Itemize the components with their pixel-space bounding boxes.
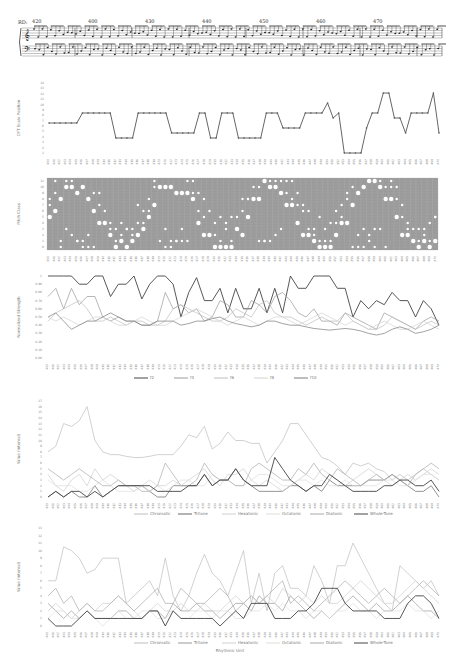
pitch-dot bbox=[87, 234, 89, 236]
y-tick-label: 10 bbox=[40, 103, 44, 107]
pitch-dot bbox=[159, 240, 161, 242]
x-tick-label: 432 bbox=[224, 632, 228, 638]
pitch-dot bbox=[291, 180, 293, 182]
x-tick-label: 411 bbox=[107, 159, 111, 165]
x-tick-label: 444 bbox=[289, 256, 293, 262]
x-tick-label: 415 bbox=[129, 632, 133, 638]
musical-score-excerpt: RD:420400430440450460470𝄞𝄢 bbox=[18, 18, 446, 62]
x-tick-label: 414 bbox=[123, 364, 127, 370]
x-tick-label: 418 bbox=[146, 256, 150, 262]
pitch-dot bbox=[147, 215, 151, 219]
y-tick-label: 0 bbox=[40, 624, 42, 628]
y-tick-label: 0.60 bbox=[35, 307, 42, 311]
x-tick-label: 400 bbox=[45, 632, 49, 638]
y-tick-label: 3 bbox=[42, 227, 44, 231]
pitch-dot bbox=[302, 210, 304, 212]
y-tick-label: 14 bbox=[40, 81, 44, 85]
x-tick-label: 461 bbox=[386, 632, 390, 638]
pitch-dot bbox=[125, 245, 129, 249]
y-tick-label: 6 bbox=[42, 209, 44, 213]
x-tick-label: 434 bbox=[234, 256, 238, 262]
y-tick-label: 11 bbox=[38, 541, 42, 545]
chart-normalized-strength: 0.000.100.200.300.400.500.600.700.800.90… bbox=[14, 268, 446, 383]
pitch-dot bbox=[109, 222, 111, 224]
pitch-dot bbox=[295, 221, 299, 225]
pitch-dot bbox=[296, 192, 298, 194]
legend-label: Hexatonic bbox=[238, 640, 258, 645]
x-tick-label: 456 bbox=[356, 256, 360, 262]
x-tick-label: 419 bbox=[151, 256, 155, 262]
x-tick-label: 401 bbox=[51, 632, 55, 638]
y-tick-label: 2 bbox=[42, 233, 44, 237]
legend-label: Hexatonic bbox=[238, 511, 258, 516]
pitch-dot bbox=[159, 186, 161, 188]
y-tick-label: 4 bbox=[40, 594, 42, 598]
pitch-dot bbox=[418, 228, 420, 230]
x-tick-label: 414 bbox=[123, 632, 127, 638]
x-tick-label: 432 bbox=[223, 256, 227, 262]
x-tick-label: 450 bbox=[325, 159, 329, 165]
x-tick-label: 437 bbox=[252, 632, 256, 638]
pitch-dot bbox=[65, 228, 67, 230]
x-tick-label: 455 bbox=[352, 364, 356, 370]
x-tick-label: 407 bbox=[84, 364, 88, 370]
x-tick-label: 466 bbox=[414, 364, 418, 370]
pitch-dot bbox=[247, 198, 249, 200]
x-tick-label: 448 bbox=[313, 364, 317, 370]
x-tick-label: 455 bbox=[352, 632, 356, 638]
x-tick-label: 470 bbox=[436, 632, 440, 638]
pitch-dot bbox=[262, 179, 266, 183]
x-tick-label: 469 bbox=[430, 503, 434, 509]
pitch-dot bbox=[269, 180, 271, 182]
x-tick-label: 405 bbox=[74, 159, 78, 165]
chart-scale-position: 1234567891011121314DFT Scale Position400… bbox=[14, 75, 446, 165]
pitch-dot bbox=[219, 240, 221, 242]
x-tick-label: 440 bbox=[269, 159, 273, 165]
x-tick-label: 436 bbox=[246, 632, 250, 638]
x-tick-label: 463 bbox=[394, 256, 398, 262]
x-tick-label: 409 bbox=[96, 256, 100, 262]
x-tick-label: 434 bbox=[235, 632, 239, 638]
x-tick-label: 422 bbox=[168, 503, 172, 509]
y-tick-label: 3 bbox=[40, 601, 42, 605]
x-tick-label: 461 bbox=[383, 256, 387, 262]
x-tick-label: 462 bbox=[389, 256, 393, 262]
x-tick-label: 413 bbox=[118, 364, 122, 370]
pitch-dot bbox=[76, 240, 78, 242]
x-tick-label: 414 bbox=[123, 256, 127, 262]
x-tick-label: 462 bbox=[391, 364, 395, 370]
y-tick-label: 4 bbox=[40, 472, 42, 476]
x-tick-label: 460 bbox=[380, 364, 384, 370]
x-tick-label: 411 bbox=[106, 632, 110, 638]
chart-interval-values-a: 01234567891011121314151617Value (Interva… bbox=[14, 397, 446, 519]
x-tick-label: 450 bbox=[322, 256, 326, 262]
x-tick-label: 441 bbox=[274, 364, 278, 370]
pitch-dot bbox=[317, 245, 321, 249]
pitch-dot bbox=[273, 185, 277, 189]
pitch-dot bbox=[434, 216, 436, 218]
x-tick-label: 436 bbox=[246, 364, 250, 370]
x-tick-label: 449 bbox=[319, 364, 323, 370]
pitch-dot bbox=[407, 228, 409, 230]
pitch-dot bbox=[423, 234, 425, 236]
x-tick-label: 461 bbox=[386, 159, 390, 165]
x-tick-label: 460 bbox=[378, 256, 382, 262]
legend-label: Tritone bbox=[193, 511, 208, 516]
measure-number: 460 bbox=[316, 18, 326, 24]
pitch-dot bbox=[323, 245, 327, 249]
measure-number: 450 bbox=[259, 18, 269, 24]
x-tick-label: 457 bbox=[361, 256, 365, 262]
pitch-dot bbox=[224, 245, 228, 249]
y-tick-label: 8 bbox=[42, 113, 44, 117]
x-tick-label: 462 bbox=[391, 503, 395, 509]
x-tick-label: 415 bbox=[129, 503, 133, 509]
pitch-dot bbox=[274, 234, 276, 236]
x-tick-label: 402 bbox=[57, 256, 61, 262]
pitch-dot bbox=[329, 222, 331, 224]
x-tick-label: 465 bbox=[408, 632, 412, 638]
x-tick-label: 468 bbox=[422, 256, 426, 262]
x-tick-label: 423 bbox=[173, 256, 177, 262]
x-tick-label: 422 bbox=[169, 159, 173, 165]
x-tick-label: 428 bbox=[202, 159, 206, 165]
x-tick-label: 443 bbox=[285, 503, 289, 509]
